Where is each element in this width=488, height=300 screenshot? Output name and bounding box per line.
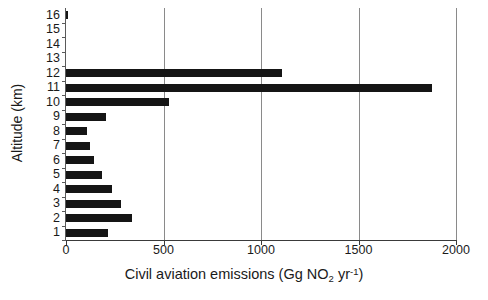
bar-altitude-4 bbox=[66, 185, 112, 193]
bar-altitude-5 bbox=[66, 171, 102, 179]
y-tick-label-2: 2 bbox=[30, 212, 60, 225]
y-tick-mark-14 bbox=[62, 52, 66, 53]
y-tick-mark-2 bbox=[62, 226, 66, 227]
x-axis-title: Civil aviation emissions (Gg NO2 yr-1) bbox=[0, 266, 488, 284]
y-tick-label-5: 5 bbox=[30, 168, 60, 181]
y-tick-mark-15 bbox=[62, 37, 66, 38]
x-axis-title-middle: yr bbox=[334, 266, 350, 282]
x-tick-label-500: 500 bbox=[134, 243, 194, 258]
x-axis-title-suffix: ) bbox=[358, 266, 363, 282]
y-tick-label-10: 10 bbox=[30, 96, 60, 109]
y-tick-label-3: 3 bbox=[30, 197, 60, 210]
gridline-x-1000 bbox=[261, 8, 262, 240]
x-tick-label-1500: 1500 bbox=[329, 243, 389, 258]
bar-altitude-10 bbox=[66, 98, 169, 106]
chart-figure: Altitude (km) 16151413121110987654321 05… bbox=[0, 0, 488, 300]
y-tick-label-1: 1 bbox=[30, 226, 60, 239]
bar-altitude-2 bbox=[66, 214, 132, 222]
y-tick-mark-11 bbox=[62, 95, 66, 96]
y-tick-label-16: 16 bbox=[30, 9, 60, 22]
y-tick-mark-10 bbox=[62, 110, 66, 111]
y-axis-tick-labels: 16151413121110987654321 bbox=[30, 8, 60, 240]
y-tick-label-7: 7 bbox=[30, 139, 60, 152]
plot-area bbox=[66, 8, 456, 240]
x-axis-title-prefix: Civil aviation emissions (Gg NO bbox=[125, 266, 329, 282]
x-tick-label-0: 0 bbox=[36, 243, 96, 258]
y-tick-label-14: 14 bbox=[30, 38, 60, 51]
bar-altitude-9 bbox=[66, 113, 106, 121]
y-tick-mark-3 bbox=[62, 211, 66, 212]
y-tick-label-15: 15 bbox=[30, 23, 60, 36]
bar-altitude-11 bbox=[66, 84, 432, 92]
bar-altitude-1 bbox=[66, 229, 108, 237]
y-tick-label-6: 6 bbox=[30, 154, 60, 167]
y-tick-label-12: 12 bbox=[30, 67, 60, 80]
y-tick-label-9: 9 bbox=[30, 110, 60, 123]
bar-altitude-7 bbox=[66, 142, 90, 150]
y-axis-title-text: Altitude (km) bbox=[9, 83, 25, 162]
bar-altitude-8 bbox=[66, 127, 87, 135]
y-tick-mark-4 bbox=[62, 197, 66, 198]
y-tick-mark-1 bbox=[62, 240, 66, 241]
x-tick-label-1000: 1000 bbox=[231, 243, 291, 258]
y-tick-label-4: 4 bbox=[30, 183, 60, 196]
bar-altitude-3 bbox=[66, 200, 121, 208]
y-tick-label-13: 13 bbox=[30, 52, 60, 65]
y-tick-mark-7 bbox=[62, 153, 66, 154]
y-tick-label-8: 8 bbox=[30, 125, 60, 138]
y-tick-mark-8 bbox=[62, 139, 66, 140]
x-tick-label-2000: 2000 bbox=[426, 243, 486, 258]
y-tick-label-11: 11 bbox=[30, 81, 60, 94]
bar-altitude-12 bbox=[66, 69, 282, 77]
gridline-x-1500 bbox=[359, 8, 360, 240]
y-tick-mark-12 bbox=[62, 81, 66, 82]
y-tick-mark-9 bbox=[62, 124, 66, 125]
gridline-x-2000 bbox=[456, 8, 457, 240]
y-axis-title: Altitude (km) bbox=[0, 0, 34, 245]
bar-altitude-6 bbox=[66, 156, 94, 164]
y-tick-mark-5 bbox=[62, 182, 66, 183]
x-axis-tick-labels: 0500100015002000 bbox=[66, 243, 456, 259]
y-tick-mark-6 bbox=[62, 168, 66, 169]
gridline-x-500 bbox=[164, 8, 165, 240]
y-tick-mark-16 bbox=[62, 23, 66, 24]
bar-altitude-16 bbox=[66, 11, 68, 19]
y-tick-mark-13 bbox=[62, 66, 66, 67]
